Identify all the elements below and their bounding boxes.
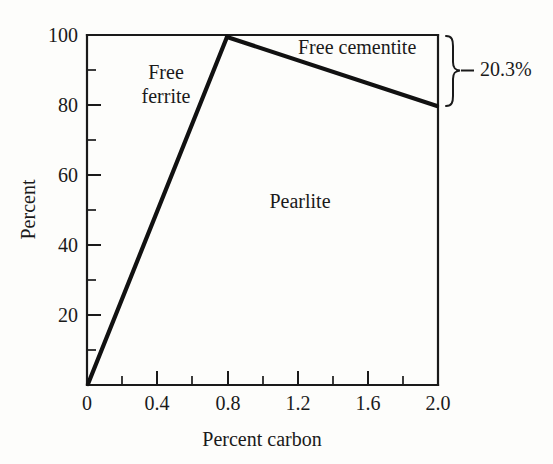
x-tick-label-0-8: 0.8 [201,393,255,413]
x-axis-title: Percent carbon [162,428,362,451]
y-tick-label-80: 80 [20,95,78,115]
x-minor-ticks [122,376,403,385]
chart-figure: 100 80 60 40 20 0 0.4 0.8 1.2 1.6 2.0 Pe… [0,0,553,464]
annotation-pearlite: Pearlite [240,190,360,213]
annotation-free-cementite: Free cementite [298,36,416,59]
y-tick-label-20: 20 [20,305,78,325]
x-tick-label-1-2: 1.2 [271,393,325,413]
y-minor-ticks [87,70,96,350]
bracket-20-3-percent [446,36,460,106]
y-tick-label-100: 100 [20,25,78,45]
annotation-free-ferrite-line2: ferrite [142,85,191,107]
annotation-free-ferrite-line1: Free [148,61,184,83]
annotation-free-ferrite: Free ferrite [118,60,214,108]
annotation-bracket-value: 20.3% [480,58,532,81]
x-tick-label-2-0: 2.0 [411,393,465,413]
x-tick-label-1-6: 1.6 [341,393,395,413]
y-axis-title: Percent [17,160,40,260]
x-tick-label-0-4: 0.4 [130,393,184,413]
x-tick-label-0: 0 [67,393,107,413]
